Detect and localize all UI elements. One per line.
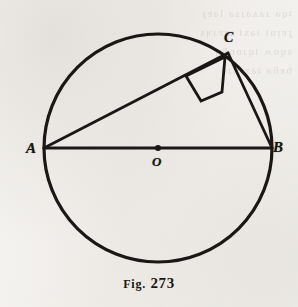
point-label-c: C: [224, 31, 233, 45]
segment-cb: [228, 53, 272, 148]
geometry-figure-canvas: [0, 0, 298, 307]
caption-number: 273: [150, 275, 174, 291]
point-label-o: O: [152, 155, 161, 168]
caption-prefix: Fig.: [123, 277, 146, 291]
point-label-b: B: [273, 140, 283, 155]
point-label-a: A: [26, 141, 36, 156]
ink-group: [44, 34, 272, 262]
caption-number-wrap: 273: [146, 275, 175, 291]
figure-caption: Fig. 273: [0, 275, 298, 292]
center-point-dot: [155, 145, 161, 151]
figure-page: ʇɥǝ ɹǝʌǝɹsǝ lǝɐɟ ɟɐᴉuʇ ʇǝxʇ ɯɐɹʞs sɥoʍ ʇ…: [0, 0, 298, 307]
